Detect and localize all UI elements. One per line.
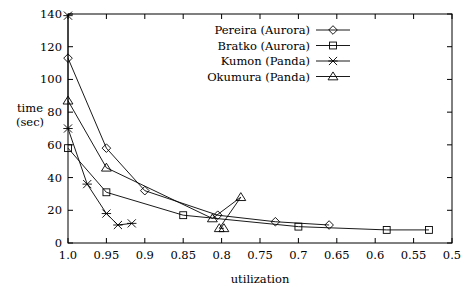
legend-label-0: Pereira (Aurora): [215, 23, 310, 37]
x-tick-label: 0.7: [289, 248, 307, 262]
x-tick-label: 0.6: [366, 248, 384, 262]
x-tick-label: 0.55: [401, 248, 427, 262]
series-line-2: [68, 16, 132, 225]
y-axis-title-line2: (sec): [16, 115, 44, 129]
y-tick-label: 20: [47, 203, 62, 217]
y-tick-label: 140: [40, 7, 62, 21]
chart-figure: 1.00.950.90.850.80.750.70.650.60.550.502…: [0, 0, 466, 288]
x-tick-label: 1.0: [59, 248, 77, 262]
x-axis-title: utilization: [231, 272, 290, 286]
y-tick-label: 120: [40, 40, 62, 54]
x-tick-label: 0.8: [212, 248, 230, 262]
x-tick-label: 0.9: [136, 248, 154, 262]
y-axis-title-line1: time: [17, 101, 43, 115]
y-tick-label: 60: [47, 138, 62, 152]
x-tick-label: 0.85: [170, 248, 196, 262]
legend-label-2: Kumon (Panda): [221, 54, 310, 68]
x-tick-label: 0.65: [324, 248, 350, 262]
y-tick-label: 40: [47, 171, 62, 185]
x-tick-label: 0.95: [94, 248, 120, 262]
legend-3-triangle-marker: [328, 72, 338, 80]
series-line-1: [68, 148, 429, 230]
y-tick-label: 0: [55, 236, 62, 250]
y-tick-label: 100: [40, 72, 62, 86]
x-tick-label: 0.75: [247, 248, 273, 262]
y-tick-label: 80: [47, 105, 62, 119]
chart-canvas: 1.00.950.90.850.80.750.70.650.60.550.502…: [0, 0, 466, 288]
legend-label-3: Okumura (Panda): [207, 70, 310, 84]
legend-label-1: Bratko (Aurora): [218, 39, 310, 53]
x-tick-label: 0.5: [443, 248, 461, 262]
